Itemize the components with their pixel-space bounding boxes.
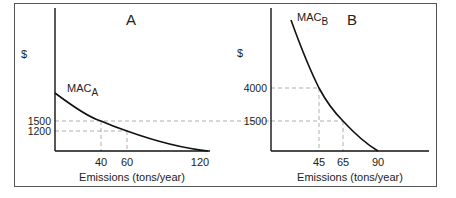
y-tick-1500-b: 1500 (244, 115, 268, 127)
mac-chart: A $ MACA 1500 1200 40 60 120 Emissions (… (0, 0, 456, 198)
mac-b-label: MACB (297, 11, 328, 27)
x-axis-label-b: Emissions (tons/year) (297, 171, 403, 183)
y-axis-label-b: $ (237, 47, 243, 59)
panel-a: A $ MACA 1500 1200 40 60 120 Emissions (… (21, 8, 271, 183)
y-axis-label-a: $ (21, 48, 27, 60)
x-tick-90: 90 (372, 156, 384, 168)
mac-b-curve (291, 20, 378, 151)
panel-a-title: A (126, 11, 136, 28)
x-axis-label-a: Emissions (tons/year) (79, 171, 185, 183)
x-tick-40: 40 (95, 156, 107, 168)
y-tick-1200-a: 1200 (28, 125, 52, 137)
x-tick-45: 45 (313, 156, 325, 168)
x-tick-60: 60 (121, 156, 133, 168)
panel-b-title: B (347, 11, 357, 28)
mac-a-curve (55, 93, 208, 151)
x-tick-65: 65 (337, 156, 349, 168)
panel-b: B $ MACB 4000 1500 45 65 90 Emissions (t… (237, 8, 429, 183)
mac-a-label: MACA (67, 82, 98, 98)
y-tick-4000-b: 4000 (244, 82, 268, 94)
x-tick-120: 120 (191, 156, 209, 168)
